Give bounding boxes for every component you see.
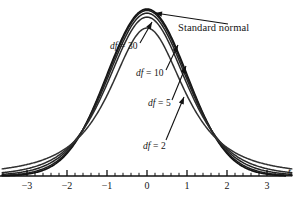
- x-tick-label--1: −1: [102, 180, 113, 191]
- annotation-df-10-rest: = 10: [144, 68, 164, 78]
- annotation-df-30-rest: = 30: [118, 41, 138, 51]
- annotation-df-10: df = 10: [136, 68, 164, 78]
- annotation-df-30-prefix: df: [110, 41, 118, 51]
- annotation-df-10-prefix: df: [136, 68, 144, 78]
- annotation-df-2-rest: = 2: [151, 141, 166, 151]
- annotation-df-2: df = 2: [143, 141, 166, 151]
- x-tick-label--2: −2: [62, 180, 73, 191]
- leader-df-2-arrowhead: [179, 97, 184, 105]
- x-tick-label-3: 3: [265, 180, 270, 191]
- x-axis-label: t: [288, 166, 291, 177]
- annotation-df-30: df = 30: [110, 41, 138, 51]
- annotation-df-5-rest: = 5: [156, 98, 171, 108]
- annotation-df-2-prefix: df: [143, 141, 151, 151]
- annotation-df-5-prefix: df: [148, 98, 156, 108]
- annotation-df-5: df = 5: [148, 98, 171, 108]
- t-distribution-figure: −3 −2 −1 0 1 2 3 t Standard normal df = …: [0, 0, 299, 201]
- x-tick-label--3: −3: [22, 180, 33, 191]
- annotation-standard-normal: Standard normal: [178, 22, 249, 33]
- x-tick-label-0: 0: [145, 180, 150, 191]
- x-tick-label-1: 1: [185, 180, 190, 191]
- x-tick-label-2: 2: [225, 180, 230, 191]
